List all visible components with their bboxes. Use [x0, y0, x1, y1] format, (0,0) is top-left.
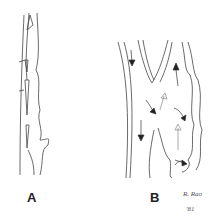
panel-label-b: B	[150, 190, 159, 205]
open-arrows	[160, 93, 181, 150]
panel-label-a: A	[27, 190, 36, 205]
artist-signature: R. Rao	[183, 190, 202, 198]
panel-a-drawing	[19, 13, 49, 175]
signature-year: '81	[186, 205, 195, 213]
illustration	[0, 0, 219, 220]
